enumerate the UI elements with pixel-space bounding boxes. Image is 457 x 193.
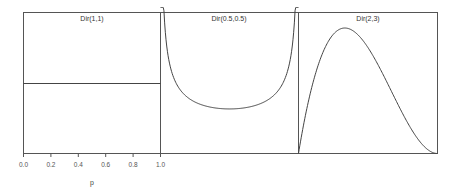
panel-3-curve bbox=[299, 28, 438, 153]
panel-2-curve bbox=[161, 8, 299, 109]
panel-3-title: Dir(2,3) bbox=[356, 15, 379, 23]
panel-2-frame bbox=[161, 13, 299, 154]
x-tick-label: 0.6 bbox=[101, 161, 110, 168]
panel-3-frame bbox=[299, 13, 438, 154]
x-tick-label: 0.8 bbox=[129, 161, 138, 168]
x-tick-label: 1.0 bbox=[156, 161, 165, 168]
x-tick-label: 0.0 bbox=[19, 161, 28, 168]
x-axis-label: p bbox=[90, 179, 94, 187]
x-tick-label: 0.2 bbox=[46, 161, 55, 168]
panel-2-title: Dir(0.5,0.5) bbox=[211, 15, 246, 23]
beta-density-chart: Dir(1,1) Dir(0.5,0.5) Dir(2,3) 0.0 0.2 0… bbox=[0, 0, 457, 193]
x-axis: 0.0 0.2 0.4 0.6 0.8 1.0 p bbox=[19, 153, 165, 187]
panel-1-title: Dir(1,1) bbox=[80, 15, 103, 23]
x-tick-label: 0.4 bbox=[74, 161, 83, 168]
